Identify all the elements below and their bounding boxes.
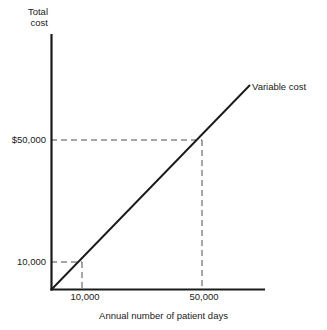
x-tick-label-10000: 10,000	[57, 291, 113, 302]
y-axis-title-line1: Total	[0, 6, 48, 17]
variable-cost-chart: Total cost Annual number of patient days…	[0, 0, 327, 330]
variable-cost-line	[51, 85, 250, 290]
y-axis-title-line2: cost	[0, 17, 48, 28]
x-axis-title: Annual number of patient days	[0, 310, 327, 321]
series-label-variable-cost: Variable cost	[252, 81, 306, 92]
x-tick-label-50000: 50,000	[176, 291, 232, 302]
y-axis-title: Total cost	[0, 6, 48, 28]
y-tick-label-50000: $50,000	[0, 134, 46, 145]
chart-canvas	[0, 0, 327, 330]
y-tick-label-10000: 10,000	[0, 256, 46, 267]
